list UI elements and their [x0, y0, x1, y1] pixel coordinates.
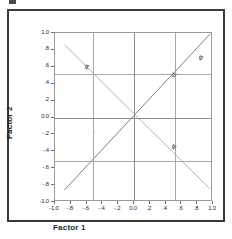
x-tick-5: [133, 201, 134, 204]
y-tick-4: [51, 100, 54, 101]
y-tick-label-8: -.6: [29, 164, 49, 170]
y-tick-9: [51, 184, 54, 185]
y-tick-5: [51, 117, 54, 118]
x-tick-7: [165, 201, 166, 204]
y-axis-title: Factor 2: [5, 106, 14, 139]
x-tick-label-10: 1.0: [203, 205, 221, 211]
axis-zero-horizontal: [55, 118, 211, 119]
gridline-horizontal-0: [55, 74, 211, 75]
x-tick-1: [70, 201, 71, 204]
stray-speck: [94, 131, 95, 132]
y-tick-8: [51, 167, 54, 168]
y-tick-label-4: .2: [29, 96, 49, 102]
y-tick-7: [51, 150, 54, 151]
x-tick-6: [149, 201, 150, 204]
x-tick-0: [54, 201, 55, 204]
y-tick-6: [51, 133, 54, 134]
y-tick-10: [51, 201, 54, 202]
plot-line-ascending-diagonal: [64, 34, 210, 190]
figure-frame: x1x3x4x2 -1.0-.8-.6-.4-.20.0.2.4.6.81.01…: [7, 9, 225, 222]
plot-area: x1x3x4x2: [54, 32, 212, 201]
top-edge-artifact: [9, 0, 16, 4]
y-tick-label-9: -.8: [29, 181, 49, 187]
x-tick-4: [117, 201, 118, 204]
y-tick-label-10: -1.0: [29, 198, 49, 204]
y-tick-label-5: 0.0: [29, 113, 49, 119]
x-tick-3: [101, 201, 102, 204]
y-tick-2: [51, 66, 54, 67]
axis-zero-vertical: [134, 33, 135, 200]
y-tick-3: [51, 83, 54, 84]
y-tick-label-3: .4: [29, 79, 49, 85]
y-tick-label-1: .8: [29, 45, 49, 51]
x-tick-9: [196, 201, 197, 204]
y-tick-label-2: .6: [29, 62, 49, 68]
x-axis-title: Factor 1: [53, 223, 86, 232]
gridline-horizontal-1: [55, 161, 211, 162]
y-tick-label-7: -.4: [29, 147, 49, 153]
y-tick-0: [51, 32, 54, 33]
gridline-vertical-1: [175, 33, 176, 200]
y-tick-1: [51, 49, 54, 50]
gridline-vertical-0: [93, 33, 94, 200]
x-tick-8: [180, 201, 181, 204]
y-tick-label-6: -.2: [29, 130, 49, 136]
y-tick-label-0: 1.0: [29, 29, 49, 35]
x-tick-2: [86, 201, 87, 204]
x-tick-10: [212, 201, 213, 204]
plot-lines: [55, 33, 211, 200]
